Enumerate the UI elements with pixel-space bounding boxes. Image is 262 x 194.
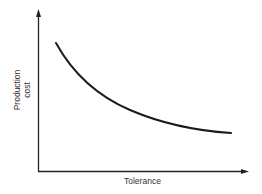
chart-canvas [0,0,262,194]
x-axis-label: Tolerance [124,176,161,186]
y-axis [36,9,41,171]
x-axis-arrow-icon [241,169,249,174]
y-axis-label-line-1: Production [12,60,22,120]
y-axis-label: Production cost [12,60,32,120]
x-axis [38,169,249,174]
cost-curve [56,43,231,133]
y-axis-label-line-2: cost [22,60,32,120]
y-axis-arrow-icon [36,9,41,17]
